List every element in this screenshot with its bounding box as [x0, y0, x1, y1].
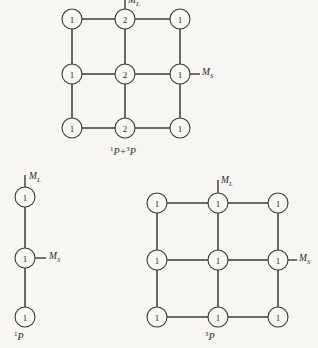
- microstate-node-count: 1: [216, 313, 221, 323]
- microstate-node-count: 2: [123, 15, 128, 25]
- singlet-p-diagram: 111: [15, 175, 46, 327]
- caption-combined: 1P+3P: [110, 147, 136, 157]
- microstate-node-count: 1: [70, 15, 75, 25]
- microstate-node-count: 1: [70, 124, 75, 134]
- microstate-node-count: 1: [276, 199, 281, 209]
- ml-axis-label-triplet: ML: [221, 176, 233, 188]
- microstate-table-figure: 121121121111111111111 ML MS 1P+3P ML MS …: [0, 0, 318, 348]
- microstate-node-count: 2: [123, 124, 128, 134]
- microstate-node-count: 1: [178, 70, 183, 80]
- triplet-p-diagram: 111111111: [147, 180, 297, 327]
- ms-axis-label-combined: MS: [202, 68, 213, 80]
- microstate-node-count: 1: [178, 15, 183, 25]
- microstate-node-count: 1: [23, 193, 28, 203]
- microstate-node-count: 1: [178, 124, 183, 134]
- microstate-node-count: 1: [155, 199, 160, 209]
- microstate-node-count: 1: [155, 313, 160, 323]
- microstate-node-count: 1: [276, 256, 281, 266]
- microstate-node-count: 1: [155, 256, 160, 266]
- microstate-node-count: 1: [276, 313, 281, 323]
- microstate-node-count: 1: [216, 256, 221, 266]
- ms-axis-label-singlet: MS: [49, 252, 60, 264]
- caption-triplet: 3P: [205, 332, 215, 342]
- ms-axis-label-triplet: MS: [299, 254, 310, 266]
- diagram-vector-layer: 121121121111111111111: [0, 0, 318, 348]
- microstate-node-count: 1: [70, 70, 75, 80]
- microstate-node-count: 1: [23, 254, 28, 264]
- combined-term-diagram: 121121121: [62, 0, 200, 138]
- microstate-node-count: 1: [23, 313, 28, 323]
- microstate-node-count: 2: [123, 70, 128, 80]
- ml-axis-label-combined: ML: [128, 0, 140, 8]
- microstate-node-count: 1: [216, 199, 221, 209]
- caption-singlet: 1P: [14, 332, 24, 342]
- ml-axis-label-singlet: ML: [29, 172, 41, 184]
